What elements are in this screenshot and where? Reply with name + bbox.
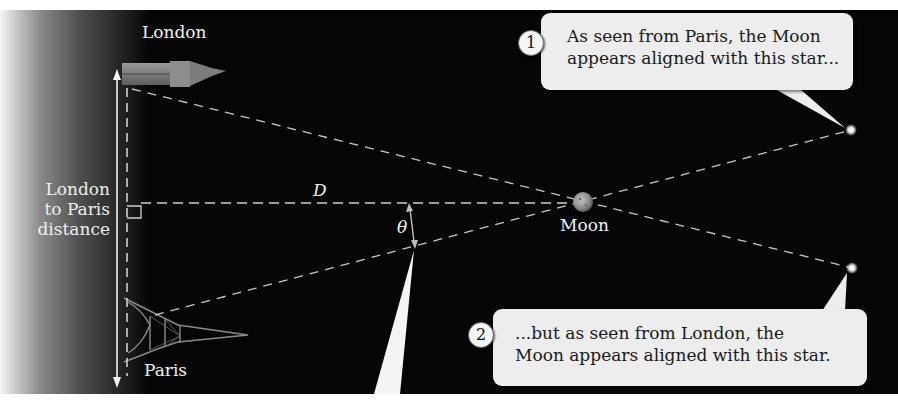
callout-1-number-badge: 1 (518, 30, 544, 56)
angle-symbol-theta: θ (397, 217, 407, 237)
theta-angle-arrow (406, 203, 418, 249)
big-ben-icon (122, 61, 226, 87)
callout-2-line1: ...but as seen from London, the (515, 323, 784, 344)
callout-1-pointer (775, 89, 845, 128)
distance-label-line3: distance (30, 219, 110, 239)
moon-icon (573, 192, 593, 212)
callout-1-line2: appears aligned with this star... (567, 48, 839, 69)
distance-label: London to Paris distance (30, 179, 110, 239)
callout-1: As seen from Paris, the Moon appears ali… (541, 13, 853, 90)
distance-label-line2: to Paris (30, 199, 110, 219)
callout-2-number-badge: 2 (468, 322, 494, 348)
callout-2-pointer (822, 273, 847, 311)
distance-arrow (113, 69, 121, 388)
star-2-icon (846, 262, 858, 274)
sightline-paris-star1 (155, 130, 851, 315)
theta-callout-pointer (374, 250, 414, 394)
moon-label: Moon (560, 215, 609, 235)
star-1-icon (845, 124, 857, 136)
eiffel-tower-icon (124, 298, 248, 362)
callout-1-line1: As seen from Paris, the Moon (567, 26, 821, 47)
paris-label: Paris (144, 360, 187, 380)
callout-2-line2: Moon appears aligned with this star. (515, 345, 831, 366)
distance-label-line1: London (30, 179, 110, 199)
right-angle-marker (127, 206, 141, 218)
sightline-london-star2 (132, 89, 852, 268)
distance-symbol-d: D (313, 180, 327, 200)
callout-2: ...but as seen from London, the Moon app… (493, 309, 867, 386)
london-label: London (142, 22, 207, 42)
